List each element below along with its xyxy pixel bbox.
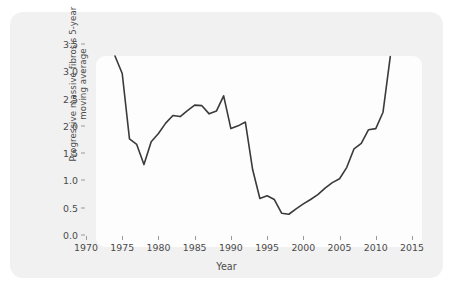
series-line-chart bbox=[10, 12, 443, 278]
figure-card: Progressive massive fibrosis 5-year movi… bbox=[10, 12, 443, 278]
figure-root: Progressive massive fibrosis 5-year movi… bbox=[0, 0, 454, 290]
x-axis-label: Year bbox=[10, 261, 443, 272]
series-line-progressive-massive-fibrosis bbox=[115, 56, 390, 214]
